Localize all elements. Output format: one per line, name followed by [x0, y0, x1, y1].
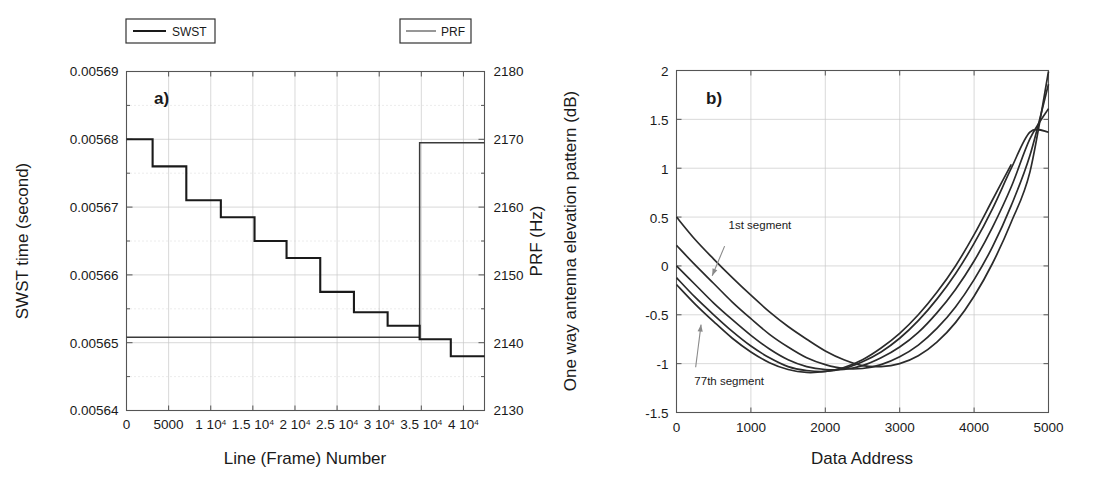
panel-b-x-ticklabel: 5000 — [1033, 420, 1063, 435]
panel-b-y-ticklabel: 0 — [661, 259, 669, 274]
panel-a-y-ticklabel: 0.00568 — [70, 132, 119, 147]
panel-a-y-ticklabel: 0.00565 — [70, 336, 119, 351]
legend-prf-label: PRF — [441, 25, 465, 39]
panel-b-svg: -1.5-1-0.500.511.52 01000200030004000500… — [550, 0, 1099, 489]
panel-b-x-ticklabel: 3000 — [885, 420, 915, 435]
panel-a-y2-ticklabel: 2150 — [494, 268, 524, 283]
panel-a-y2-ticklabel: 2180 — [494, 64, 524, 79]
annotation-last-segment-label: 77th segment — [694, 375, 764, 387]
panel-a-x-ticklabel: 3.5 104 — [400, 417, 443, 432]
panel-a-x-ticklabel: 5000 — [154, 417, 184, 432]
panel-a-x-ticklabel: 1 104 — [195, 417, 226, 432]
panel-a-svg: SWST PRF 0.005640.005650.005660.005670.0… — [0, 0, 550, 489]
panel-a-yaxis-right-title: PRF (Hz) — [527, 206, 546, 277]
panel-a-y-ticklabel: 0.00564 — [70, 403, 119, 418]
panel-a-y2-ticklabel: 2170 — [494, 132, 524, 147]
panel-b-x-ticklabel: 1000 — [736, 420, 766, 435]
panel-b-y-ticklabel: 1.5 — [650, 113, 669, 128]
panel-b-y-ticklabel: 0.5 — [650, 211, 669, 226]
panel-a-y-ticklabel: 0.00567 — [70, 200, 119, 215]
panel-b-y-ticklabel: -0.5 — [645, 308, 668, 323]
panel-b-x-ticklabel: 4000 — [959, 420, 989, 435]
panel-b-y-ticklabel: -1.5 — [645, 406, 668, 421]
panel-a-label: a) — [154, 89, 169, 108]
panel-a-x-ticklabel: 2 104 — [280, 417, 311, 432]
panel-a-x-ticklabel: 3 104 — [364, 417, 395, 432]
panel-b-x-ticklabel: 2000 — [810, 420, 840, 435]
panel-a-yaxis-title: SWST time (second) — [13, 163, 32, 320]
panel-b-y-ticklabel: -1 — [656, 357, 668, 372]
series-prf-line — [127, 143, 485, 338]
panel-a-y2-ticklabel: 2160 — [494, 200, 524, 215]
panel-a-y2-ticklabel: 2140 — [494, 336, 524, 351]
panel-b-label: b) — [706, 89, 722, 108]
figure-container: SWST PRF 0.005640.005650.005660.005670.0… — [0, 0, 1099, 489]
annotation-first-segment-label: 1st segment — [729, 219, 792, 231]
annotation-first-segment-arrowhead — [712, 268, 717, 275]
panel-a-y-ticklabels: 0.005640.005650.005660.005670.005680.005… — [70, 64, 119, 418]
panel-a-x-ticklabel: 0 — [123, 417, 131, 432]
panel-a-y-ticklabel: 0.00569 — [70, 64, 119, 79]
panel-b-y-ticklabel: 1 — [661, 162, 669, 177]
curve-segment-77 — [677, 164, 1012, 372]
series-swst-line — [127, 139, 485, 356]
panel-a-y2-ticklabel: 2130 — [494, 403, 524, 418]
panel-b-yaxis-title: One way antenna elevation pattern (dB) — [561, 91, 580, 392]
panel-a-xaxis-title: Line (Frame) Number — [224, 449, 387, 468]
panel-b-y-ticklabel: 2 — [661, 64, 669, 79]
legend-swst-label: SWST — [172, 25, 207, 39]
panel-b: -1.5-1-0.500.511.52 01000200030004000500… — [550, 0, 1099, 489]
panel-b-x-ticklabel: 0 — [673, 420, 681, 435]
legend-swst: SWST — [126, 19, 215, 43]
panel-a-x-ticklabel: 2.5 104 — [316, 417, 359, 432]
panel-a-x-ticklabels: 050001 1041.5 1042 1042.5 1043 1043.5 10… — [123, 417, 480, 432]
annotation-last-segment-arrowhead — [698, 325, 703, 332]
curve-segment-4 — [677, 129, 1049, 371]
panel-a-y2-ticklabels: 213021402150216021702180 — [494, 64, 524, 418]
panel-b-xaxis-title: Data Address — [811, 449, 913, 468]
legend-prf: PRF — [400, 19, 471, 43]
panel-b-y-ticklabels: -1.5-1-0.500.511.52 — [645, 64, 668, 421]
panel-a-x-ticklabel: 1.5 104 — [232, 417, 275, 432]
panel-a: SWST PRF 0.005640.005650.005660.005670.0… — [0, 0, 550, 489]
panel-a-gridlines — [127, 72, 485, 411]
panel-b-x-ticklabels: 010002000300040005000 — [673, 420, 1064, 435]
panel-a-y-ticklabel: 0.00566 — [70, 268, 119, 283]
panel-a-x-ticklabel: 4 104 — [448, 417, 479, 432]
